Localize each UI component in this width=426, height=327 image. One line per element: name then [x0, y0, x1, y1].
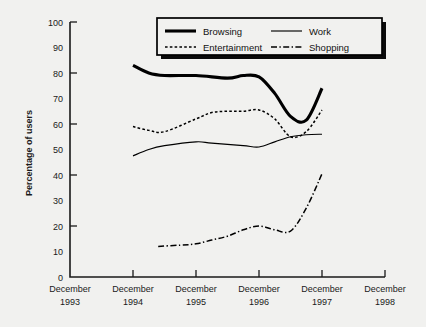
x-tick-label-month: December [112, 284, 154, 294]
x-tick-label-year: 1994 [123, 297, 143, 307]
line-chart: Percentage of users 100 90 80 70 60 50 4… [0, 0, 426, 327]
y-tick-label: 0 [58, 273, 63, 283]
x-tick-label-month: December [364, 284, 406, 294]
chart-svg: Percentage of users 100 90 80 70 60 50 4… [0, 0, 426, 327]
y-tick-label: 10 [53, 247, 63, 257]
x-tick-label-year: 1997 [312, 297, 332, 307]
y-tick-label: 70 [53, 94, 63, 104]
y-tick-label: 80 [53, 69, 63, 79]
x-tick-label-year: 1998 [375, 297, 395, 307]
y-tick-label: 90 [53, 43, 63, 53]
y-tick-label: 50 [53, 145, 63, 155]
y-tick-label: 20 [53, 222, 63, 232]
x-tick-label-month: December [49, 284, 91, 294]
legend: Browsing Work Entertainment Shopping [157, 18, 386, 59]
x-tick-label-month: December [175, 284, 217, 294]
y-tick-label: 60 [53, 120, 63, 130]
legend-label-entertainment: Entertainment [203, 42, 263, 53]
y-axis-title: Percentage of users [24, 110, 34, 196]
y-tick-label: 40 [53, 171, 63, 181]
legend-label-work: Work [309, 26, 331, 37]
x-tick-label-month: December [301, 284, 343, 294]
legend-label-shopping: Shopping [309, 42, 349, 53]
x-tick-label-month: December [238, 284, 280, 294]
y-tick-label: 100 [48, 18, 63, 28]
x-tick-label-year: 1993 [60, 297, 80, 307]
x-tick-label-year: 1995 [186, 297, 206, 307]
y-tick-label: 30 [53, 196, 63, 206]
legend-label-browsing: Browsing [203, 26, 242, 37]
x-tick-label-year: 1996 [249, 297, 269, 307]
